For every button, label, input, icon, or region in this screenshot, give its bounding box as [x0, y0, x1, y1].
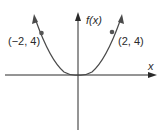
- x-axis-label: x: [148, 61, 154, 72]
- y-axis-label: f(x): [86, 15, 102, 26]
- x-axis-arrow-icon: [148, 72, 157, 78]
- point-right-label: (2, 4): [118, 36, 144, 47]
- point-2-4: [110, 30, 115, 35]
- parabola-graph: [0, 0, 160, 135]
- y-axis-arrow-icon: [75, 12, 81, 21]
- point-left-label: (−2, 4): [8, 36, 40, 47]
